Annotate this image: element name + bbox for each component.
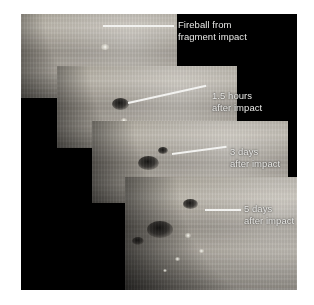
impact-scar-4-main (147, 221, 173, 238)
impact-scar-4-second (183, 199, 198, 209)
callout-1-5-hours: 1.5 hours after impact (212, 90, 262, 113)
impact-scar-3-small (158, 147, 168, 154)
fireball-plume-1 (101, 44, 109, 50)
callout-fireball: Fireball from fragment impact (178, 19, 247, 42)
bright-spot-4c (175, 257, 180, 261)
figure-root: Fireball from fragment impact 1.5 hours … (0, 0, 314, 305)
impact-scar-4-third (132, 237, 144, 245)
leader-line-5-days (205, 209, 241, 211)
leader-line-fireball (103, 25, 174, 27)
bright-spot-4a (185, 233, 191, 238)
callout-5-days: 5 days after impact (244, 203, 294, 226)
photo-frame: Fireball from fragment impact 1.5 hours … (21, 14, 297, 290)
impact-scar-3-main (138, 156, 159, 170)
bright-spot-4b (199, 249, 204, 253)
impact-scar-2 (112, 98, 129, 110)
callout-3-days: 3 days after impact (230, 146, 280, 169)
jupiter-panel-4 (125, 177, 297, 290)
bright-spot-4d (163, 269, 167, 272)
